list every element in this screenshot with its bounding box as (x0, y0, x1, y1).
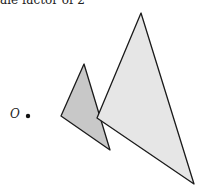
large-triangle (97, 13, 194, 184)
enlargement-diagram (0, 0, 210, 192)
center-point (26, 114, 30, 118)
